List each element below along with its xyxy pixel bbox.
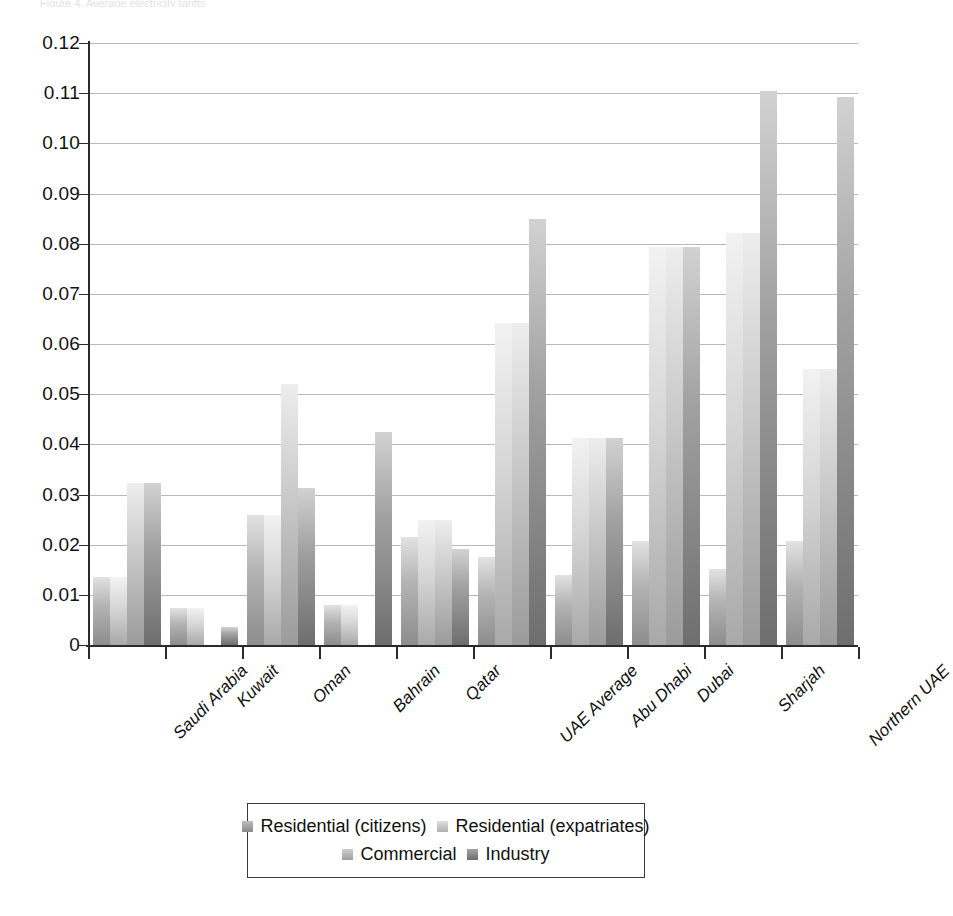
y-tick-mark [79,495,88,496]
y-tick-mark [79,394,88,395]
y-axis-labels: US$ per kWh 00.010.020.030.040.050.060.0… [0,0,80,646]
y-tick-mark [79,294,88,295]
bar [786,541,803,645]
y-tick-mark [79,595,88,596]
bar [726,233,743,645]
bar [418,520,435,645]
y-tick-label: 0.04 [42,433,80,455]
bar [495,323,512,645]
bar [221,627,238,645]
bar [187,608,204,645]
category-label: Oman [308,661,355,708]
bar [435,520,452,645]
plot-area [88,43,858,645]
bar [820,369,837,645]
bar [803,369,820,645]
bar [632,541,649,645]
category-label: Northern UAE [864,661,953,750]
y-tick-mark [79,194,88,195]
y-tick-label: 0.09 [42,183,80,205]
y-tick-label: 0.06 [42,333,80,355]
bar [127,483,144,645]
y-tick-mark [79,444,88,445]
y-tick-label: 0.07 [42,283,80,305]
legend-label: Residential (expatriates) [455,816,649,837]
y-tick-label: 0.01 [42,584,80,606]
y-tick-label: 0.05 [42,383,80,405]
y-tick-mark [79,244,88,245]
bar [93,577,110,645]
bar-group [627,43,704,645]
clipped-caption: Figure 4. Average electricity tariffs [40,0,560,7]
bar-group [550,43,627,645]
legend-label: Residential (citizens) [260,816,426,837]
bar [478,557,495,645]
y-tick-mark [79,93,88,94]
bar [110,577,127,645]
bar-group [319,43,396,645]
bar [341,605,358,645]
bar [606,438,623,645]
y-tick-mark [79,43,88,44]
series-1-swatch-icon [437,821,448,832]
series-3-swatch-icon [467,849,478,860]
bar [760,91,777,645]
bar-group [165,43,242,645]
bar [401,537,418,645]
legend-item-residential-citizens: Residential (citizens) [242,816,426,837]
legend-row-1: Residential (citizens) Residential (expa… [242,816,649,837]
bar [572,438,589,645]
bar [837,97,854,645]
bar [555,575,572,645]
series-2-swatch-icon [342,849,353,860]
bar [324,605,341,645]
bar [529,219,546,645]
bar-group [396,43,473,645]
category-label: Sharjah [774,661,830,717]
category-label: Dubai [693,661,739,707]
bar [170,608,187,645]
y-axis-line [88,41,90,647]
y-tick-label: 0.10 [42,132,80,154]
bar-group [242,43,319,645]
legend-label: Commercial [360,844,456,865]
bar [452,549,469,645]
legend-label: Industry [485,844,549,865]
y-tick-mark [79,545,88,546]
bar [589,438,606,645]
y-tick-label: 0.11 [44,82,80,104]
legend-item-industry: Industry [467,844,549,865]
bar [281,384,298,645]
y-tick-label: 0.03 [42,484,80,506]
y-tick-mark [79,344,88,345]
bar [649,247,666,645]
bar [264,515,281,645]
bar [709,569,726,645]
category-labels: Saudi ArabiaKuwaitOmanBahrainQatarUAE Av… [88,655,858,775]
bar-groups [88,43,858,645]
bar [743,233,760,645]
bar-group [473,43,550,645]
bar-group [781,43,858,645]
bar [512,323,529,645]
y-tick-label: 0.02 [42,534,80,556]
series-0-swatch-icon [242,821,253,832]
legend-item-commercial: Commercial [342,844,456,865]
legend-box: Residential (citizens) Residential (expa… [247,803,645,878]
legend-item-residential-expatriates: Residential (expatriates) [437,816,649,837]
bar [683,247,700,645]
category-label: Qatar [461,661,505,705]
legend-row-2: Commercial Industry [342,844,549,865]
bar [247,515,264,645]
x-tick-mark [858,647,860,659]
bar [375,432,392,645]
bar-group [704,43,781,645]
category-label: UAE Average [555,661,641,747]
bar-group [88,43,165,645]
y-tick-label: 0.08 [42,233,80,255]
bar [144,483,161,645]
bar [666,247,683,645]
y-tick-label: 0.12 [42,32,80,54]
y-tick-mark [79,143,88,144]
